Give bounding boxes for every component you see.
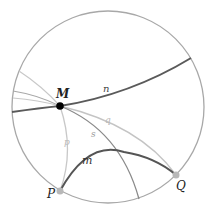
label-m: m [82, 154, 92, 167]
label-p: p [64, 137, 70, 147]
ultraparallel-line-1 [19, 71, 60, 106]
label-q: q [105, 115, 111, 125]
ideal-point-Q [173, 172, 180, 179]
line-q [60, 106, 176, 175]
point-M [56, 102, 64, 110]
line-p [60, 106, 68, 191]
label-P: P [46, 187, 56, 201]
label-M: M [55, 87, 70, 101]
label-s: s [91, 129, 96, 139]
poincare-disk-diagram: M P Q n m p q s [0, 0, 215, 212]
label-Q: Q [176, 179, 186, 193]
label-n: n [103, 83, 109, 94]
ideal-point-P [57, 188, 64, 195]
